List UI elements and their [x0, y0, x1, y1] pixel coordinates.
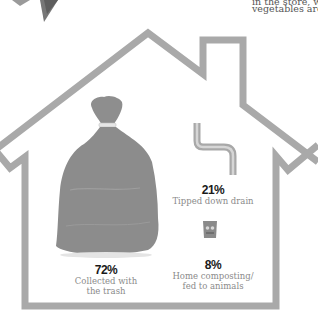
house-illustration — [0, 0, 318, 325]
header-fragment-line-2: vegetables are le — [252, 3, 318, 14]
arrow-fragment-icon — [12, 0, 58, 22]
compost-bin-icon — [203, 221, 217, 238]
stat-tipped-down-drain: 21% Tipped down drain — [163, 184, 263, 207]
stat-label-line-2: fed to animals — [163, 282, 263, 292]
trash-bag-icon — [56, 96, 159, 258]
stat-home-composting: 8% Home composting/ fed to animals — [163, 259, 263, 291]
header-fragment: in the store, wh vegetables are le — [252, 0, 318, 14]
house-outline-icon — [0, 33, 318, 306]
stat-label-line-2: the trash — [58, 287, 154, 297]
stat-collected-with-trash: 72% Collected with the trash — [58, 264, 154, 296]
drain-pipe-icon — [197, 123, 233, 175]
stat-label-line-1: Tipped down drain — [163, 197, 263, 207]
